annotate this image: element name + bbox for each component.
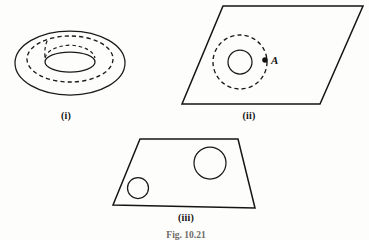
figure-caption: Fig. 10.21 bbox=[166, 230, 206, 240]
panel-ii-parallelogram: A (ii) bbox=[182, 6, 363, 122]
figure-svg: (i) A (ii) (iii) Fig. 10.21 bbox=[0, 0, 369, 240]
torus-hole-outline bbox=[45, 52, 95, 72]
torus-outer-outline bbox=[15, 31, 125, 95]
figure-container: (i) A (ii) (iii) Fig. 10.21 bbox=[0, 0, 369, 240]
panel-iii-label: (iii) bbox=[178, 212, 194, 224]
torus-hidden-ring-dashed bbox=[27, 36, 113, 82]
quadrilateral-large-circle bbox=[194, 147, 226, 179]
panel-i-label: (i) bbox=[61, 110, 71, 122]
panel-i-torus: (i) bbox=[15, 31, 125, 122]
parallelogram-solid-circle bbox=[228, 50, 252, 74]
torus-tube-seam-dashed bbox=[45, 39, 48, 57]
parallelogram-dashed-circle bbox=[213, 35, 267, 89]
panel-iii-quadrilateral: (iii) bbox=[113, 139, 255, 224]
panel-ii-label: (ii) bbox=[242, 110, 255, 122]
point-a-dot bbox=[262, 57, 268, 63]
point-a-label: A bbox=[270, 54, 278, 66]
quadrilateral-small-circle bbox=[128, 178, 149, 199]
